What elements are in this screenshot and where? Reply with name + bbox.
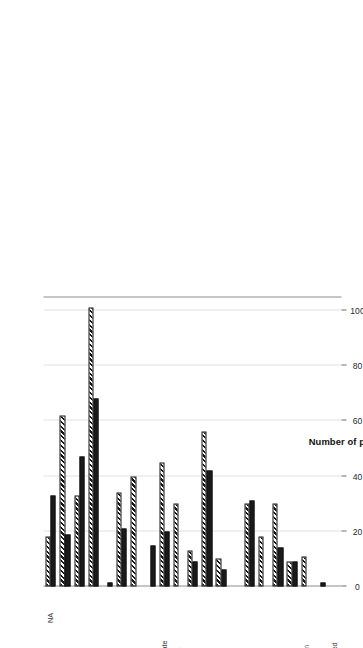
bar-hatched — [88, 307, 93, 586]
bar-solid — [79, 456, 84, 586]
bar-solid — [107, 582, 112, 586]
bar-hatched — [187, 550, 192, 586]
value-axis-tick-label: 40 — [352, 471, 362, 481]
bar-solid — [121, 528, 126, 586]
bar-solid — [93, 398, 98, 586]
value-axis-tick — [341, 475, 346, 476]
value-axis-tick — [341, 530, 346, 531]
bar-hatched — [244, 503, 249, 586]
bar-solid — [277, 547, 282, 586]
value-axis-tick — [341, 585, 346, 586]
bar-solid — [292, 561, 297, 586]
bar-solid — [221, 569, 226, 586]
bar-solid — [65, 534, 70, 586]
category-label: Unclassified — [330, 642, 337, 648]
chart-canvas: UnclassifiedDisrupted reading frameTrans… — [0, 0, 363, 648]
value-axis-title: Number of proteins identified — [308, 436, 363, 447]
bar-solid — [320, 582, 325, 586]
value-axis-tick-label: 60 — [352, 415, 362, 425]
bar-hatched — [116, 492, 121, 586]
bar-hatched — [173, 503, 178, 586]
value-axis-tick — [341, 419, 346, 420]
bar-solid — [150, 545, 155, 586]
bar-hatched — [258, 536, 263, 586]
bar-hatched — [286, 561, 291, 586]
bar-solid — [164, 531, 169, 586]
category-label: Protein fate — [160, 640, 167, 648]
bar-solid — [192, 561, 197, 586]
value-axis-tick — [341, 309, 346, 310]
value-axis-tick-label: 100 — [350, 305, 363, 315]
bar-hatched — [301, 556, 306, 586]
chart-figure: UnclassifiedDisrupted reading frameTrans… — [0, 0, 363, 648]
value-axis-tick-label: 20 — [352, 526, 362, 536]
bar-hatched — [201, 431, 206, 586]
chart-rotation-wrapper: UnclassifiedDisrupted reading frameTrans… — [0, 0, 363, 648]
bar-hatched — [159, 462, 164, 586]
value-axis-tick-label: 80 — [352, 360, 362, 370]
category-label: Transcription — [302, 644, 309, 648]
category-label: NA — [46, 612, 53, 622]
bar-solid — [249, 500, 254, 586]
bar-hatched — [216, 558, 221, 586]
category-axis-spine — [43, 296, 341, 297]
bar-solid — [206, 470, 211, 586]
value-axis-tick-label: 0 — [355, 581, 360, 591]
bar-hatched — [45, 536, 50, 586]
bar-hatched — [130, 476, 135, 586]
value-axis-tick — [341, 364, 346, 365]
bar-hatched — [272, 503, 277, 586]
bar-hatched — [59, 415, 64, 586]
bar-hatched — [74, 495, 79, 586]
bar-solid — [50, 495, 55, 586]
plot-area — [43, 296, 341, 586]
